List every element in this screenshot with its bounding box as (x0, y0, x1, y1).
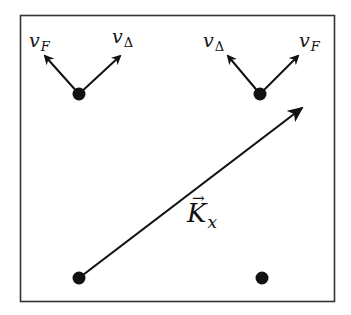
vector-arrow-accent: → (192, 191, 205, 206)
vdelta-arrow-right (228, 56, 260, 94)
label-vf-top-right: vF (299, 31, 320, 50)
point-bottom-left (73, 272, 86, 285)
vf-arrow-right (260, 56, 298, 94)
label-kx-vector: →Kx (187, 200, 217, 226)
label-vdelta-top-left: vΔ (112, 27, 133, 46)
point-top-right (254, 88, 267, 101)
point-top-left (73, 88, 86, 101)
vdelta-arrow-left (79, 56, 120, 94)
label-vdelta-top-right: vΔ (203, 31, 224, 50)
vf-arrow-left (45, 56, 79, 94)
point-bottom-right (256, 272, 269, 285)
label-vf-top-left: vF (29, 31, 50, 50)
kx-vector-arrow (79, 108, 302, 278)
frame-border (21, 16, 335, 302)
